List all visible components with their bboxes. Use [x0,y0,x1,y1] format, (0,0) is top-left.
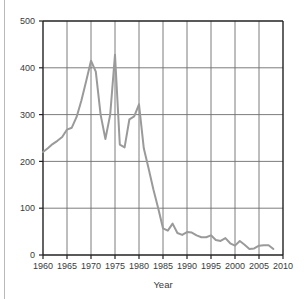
x-tick-label: 1980 [129,261,149,271]
x-tick-label: 1965 [57,261,77,271]
x-tick-label: 2005 [249,261,269,271]
x-axis-title: Year [153,279,172,290]
x-tick-label: 1970 [81,261,101,271]
x-tick-label: 2010 [273,261,293,271]
y-axis-tick-labels: 0100200300400500 [20,16,35,260]
x-tick-label: 1985 [153,261,173,271]
x-axis-tick-labels: 1960196519701975198019851990199520002005… [33,261,293,271]
x-tick-label: 2000 [225,261,245,271]
x-tick-label: 1990 [177,261,197,271]
chart-figure: 1960196519701975198019851990199520002005… [0,0,307,299]
y-tick-label: 200 [20,157,35,167]
y-tick-label: 500 [20,16,35,26]
x-tick-label: 1960 [33,261,53,271]
line-chart: 1960196519701975198019851990199520002005… [0,0,307,299]
x-tick-label: 1975 [105,261,125,271]
y-tick-label: 400 [20,63,35,73]
y-tick-label: 300 [20,110,35,120]
y-tick-label: 0 [30,250,35,260]
y-tick-label: 100 [20,203,35,213]
x-tick-label: 1995 [201,261,221,271]
